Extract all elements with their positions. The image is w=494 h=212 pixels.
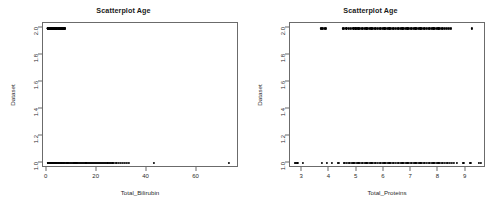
plot-area-left — [42, 22, 238, 167]
data-point — [450, 27, 452, 29]
x-tick — [145, 167, 146, 171]
x-axis-left: 0204060 — [42, 167, 238, 171]
y-axis-label-wrap-left: Dataset — [6, 22, 18, 167]
x-tick-label: 4 — [327, 173, 330, 179]
y-tick-label: 1.8 — [280, 54, 286, 62]
panel-total-bilirubin: Scatterplot Age Dataset 1.01.21.41.61.82… — [0, 0, 247, 212]
panel-title-left: Scatterplot Age — [0, 6, 247, 15]
x-tick — [195, 167, 196, 171]
x-tick-label: 9 — [463, 173, 466, 179]
scatterplot-figure: Scatterplot Age Dataset 1.01.21.41.61.82… — [0, 0, 494, 212]
y-tick-label: 1.8 — [33, 54, 39, 62]
y-axis-label-wrap-right: Dataset — [253, 22, 265, 167]
x-tick-label: 40 — [142, 173, 149, 179]
x-tick — [45, 167, 46, 171]
y-axis-label-right: Dataset — [256, 84, 263, 105]
data-point — [325, 27, 327, 29]
data-point — [64, 27, 66, 29]
x-axis-label-left: Total_Bilirubin — [42, 189, 238, 196]
y-axis-label-left: Dataset — [9, 84, 16, 105]
data-point — [338, 162, 340, 164]
x-tick-label: 20 — [92, 173, 99, 179]
x-tick — [437, 167, 438, 171]
data-point — [469, 162, 471, 164]
y-tick-label: 1.0 — [280, 162, 286, 170]
x-tick-label: 0 — [44, 173, 47, 179]
data-point — [321, 162, 323, 164]
y-tick-label: 1.0 — [33, 162, 39, 170]
plot-area-right — [289, 22, 485, 167]
x-tick-label: 60 — [192, 173, 199, 179]
y-tick-label: 1.2 — [33, 135, 39, 143]
data-point — [228, 162, 230, 164]
x-tick — [328, 167, 329, 171]
data-point — [470, 27, 472, 29]
x-tick — [382, 167, 383, 171]
data-point — [456, 162, 458, 164]
y-tick-label: 2.0 — [33, 27, 39, 35]
y-tick-label: 1.4 — [33, 108, 39, 116]
data-points-right — [290, 23, 484, 166]
x-tick — [95, 167, 96, 171]
data-point — [296, 162, 298, 164]
panel-total-proteins: Scatterplot Age Dataset 1.01.21.41.61.82… — [247, 0, 494, 212]
x-tick-label: 5 — [354, 173, 357, 179]
x-tick — [464, 167, 465, 171]
y-tick-label: 1.6 — [280, 81, 286, 89]
y-tick-label: 1.2 — [280, 135, 286, 143]
x-tick-label: 7 — [408, 173, 411, 179]
data-points-left — [43, 23, 237, 166]
x-tick-label: 3 — [300, 173, 303, 179]
x-axis-right: 3456789 — [289, 167, 485, 171]
y-tick-label: 2.0 — [280, 27, 286, 35]
data-point — [462, 162, 464, 164]
x-tick — [355, 167, 356, 171]
x-tick — [410, 167, 411, 171]
panel-title-right: Scatterplot Age — [247, 6, 494, 15]
data-point — [331, 162, 333, 164]
data-point — [480, 162, 482, 164]
y-tick-label: 1.4 — [280, 108, 286, 116]
data-point — [302, 162, 304, 164]
x-axis-label-right: Total_Proteins — [289, 189, 485, 196]
y-tick-label: 1.6 — [33, 81, 39, 89]
data-point — [128, 162, 130, 164]
x-tick-label: 8 — [436, 173, 439, 179]
data-point — [326, 162, 328, 164]
x-tick — [301, 167, 302, 171]
x-tick-label: 6 — [381, 173, 384, 179]
data-point — [153, 162, 155, 164]
